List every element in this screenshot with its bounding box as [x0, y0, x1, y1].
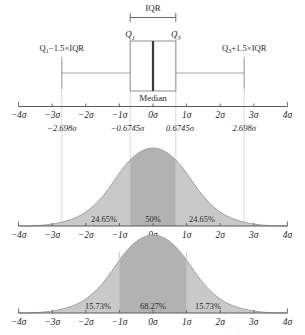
tick-label-4sigma: 4σ [283, 317, 293, 327]
sigma-percent-labels: 15.73% 68.27% 15.73% [85, 302, 221, 311]
tick-label--2sigma: −2σ [78, 230, 94, 240]
tick-label-3sigma: 3σ [248, 110, 259, 120]
shade-left-light [19, 140, 131, 226]
tick-label-4sigma: 4σ [283, 230, 293, 240]
tick-label-1sigma: 1σ [182, 230, 192, 240]
quartile-percent-labels: 24.65% 50% 24.65% [91, 215, 215, 224]
tick-label-3sigma: 3σ [248, 317, 259, 327]
axis-tick-labels: −4σ −3σ −2σ −1σ 0σ 1σ 2σ 3σ 4σ [11, 110, 293, 120]
tick-label-0sigma: 0σ [148, 110, 158, 120]
lower-fence-label: Q1−1.5×IQR [40, 43, 85, 54]
tick-label-2sigma: 2σ [215, 317, 225, 327]
shade-left-light [19, 228, 120, 313]
annotation-q3: 0.6745σ [166, 123, 195, 133]
annotation-q1: −0.6745σ [111, 123, 145, 133]
boxplot-panel: IQR Q1 Q3 Q1−1.5×IQR Q3+1.5×IQR Median [40, 3, 267, 103]
percent-label-right: 24.65% [189, 215, 215, 224]
iqr-bracket [130, 13, 176, 22]
tick-label--3sigma: −3σ [44, 110, 60, 120]
tick-label--1sigma: −1σ [111, 317, 127, 327]
quartile-curve-panel: 24.65% 50% 24.65% [19, 140, 288, 226]
tick-label-1sigma: 1σ [182, 110, 192, 120]
tick-label--4sigma: −4σ [11, 317, 27, 327]
annotation-upper-fence: 2.698σ [232, 123, 256, 133]
percent-label-center: 68.27% [140, 302, 166, 311]
tick-label--4sigma: −4σ [11, 110, 27, 120]
tick-label-1sigma: 1σ [182, 317, 192, 327]
q1-label: Q1 [125, 29, 135, 41]
tick-label-2sigma: 2σ [215, 230, 225, 240]
tick-label--1sigma: −1σ [111, 230, 127, 240]
quartile-shading [19, 140, 288, 226]
iqr-label: IQR [145, 3, 161, 13]
upper-fence-label: Q3+1.5×IQR [222, 43, 267, 54]
percent-label-right: 15.73% [195, 302, 221, 311]
tick-label--2sigma: −2σ [78, 110, 94, 120]
tick-label-4sigma: 4σ [283, 110, 293, 120]
shade-right-light [187, 228, 288, 313]
percent-label-center: 50% [145, 215, 160, 224]
sigma-curve-panel: 15.73% 68.27% 15.73% [19, 228, 288, 313]
tick-label-2sigma: 2σ [215, 110, 225, 120]
median-label: Median [139, 93, 167, 103]
percent-label-left: 24.65% [91, 215, 117, 224]
percent-label-left: 15.73% [85, 302, 111, 311]
tick-label-0sigma: 0σ [148, 317, 158, 327]
tick-label--1sigma: −1σ [111, 110, 127, 120]
shade-center-dark [130, 140, 176, 226]
tick-label--3sigma: −3σ [44, 317, 60, 327]
shade-right-light [176, 140, 288, 226]
q3-label: Q3 [171, 29, 181, 41]
annotation-lower-fence: −2.698σ [47, 123, 77, 133]
tick-label--3sigma: −3σ [44, 230, 60, 240]
tick-label--2sigma: −2σ [78, 317, 94, 327]
tick-label--4sigma: −4σ [11, 230, 27, 240]
sigma-shading [19, 228, 288, 313]
quantile-annotations: −2.698σ −0.6745σ 0.6745σ 2.698σ [47, 123, 257, 133]
normal-distribution-boxplot-figure: IQR Q1 Q3 Q1−1.5×IQR Q3+1.5×IQR Median [0, 0, 305, 335]
axis-tick-labels: −4σ −3σ −2σ −1σ 0σ 1σ 2σ 3σ 4σ [11, 317, 293, 327]
axis-boxplot: −4σ −3σ −2σ −1σ 0σ 1σ 2σ 3σ 4σ −2.698σ −… [11, 102, 293, 133]
tick-label-3sigma: 3σ [248, 230, 259, 240]
shade-center-dark [119, 228, 186, 313]
